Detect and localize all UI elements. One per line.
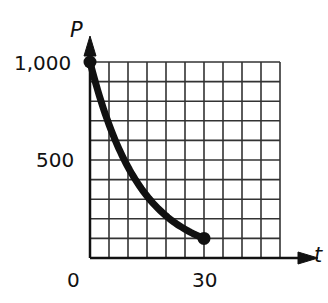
endpoint-dot (198, 232, 211, 245)
x-tick-30: 30 (192, 270, 217, 290)
y-tick-1000: 1,000 (14, 53, 71, 73)
x-tick-0: 0 (67, 270, 80, 290)
y-tick-500: 500 (36, 150, 74, 170)
y-axis-arrow-icon (84, 36, 96, 56)
endpoint-dot (84, 56, 97, 69)
x-axis-label: t (314, 245, 322, 266)
y-axis-label: P (70, 20, 83, 41)
